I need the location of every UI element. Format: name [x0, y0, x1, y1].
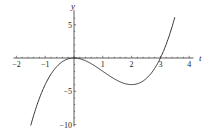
y-axis-label: y	[70, 1, 75, 11]
x-axis-label: t	[199, 53, 202, 63]
x-tick-label: −2	[12, 60, 21, 69]
y-tick-label: 5	[68, 21, 72, 30]
y-tick-label: −10	[59, 121, 72, 130]
tick-labels: −2−112345−5−10	[12, 21, 191, 130]
chart-plot: −2−112345−5−10 t y	[0, 0, 211, 136]
x-tick-label: 4	[187, 60, 191, 69]
x-tick-label: 2	[130, 60, 134, 69]
x-tick-label: 1	[101, 60, 105, 69]
function-curve	[31, 17, 175, 125]
x-tick-label: −1	[41, 60, 50, 69]
y-tick-label: −5	[63, 87, 72, 96]
